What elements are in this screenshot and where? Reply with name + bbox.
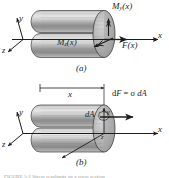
panel-b-caption: (b) [76,157,87,167]
figure-footnote-cut: FIGURE 5-2 Stress resultants on a cross … [4,174,166,178]
panel-a-caption: (a) [76,63,87,73]
moment-y-symbol: M [112,1,120,11]
panel-a-force-label: F(x) [122,41,138,50]
panel-b-dimension-label: x [68,90,72,99]
panel-a-y-axis-label: y [19,14,23,23]
moment-z-symbol: M [57,37,65,47]
panel-a-x-axis-label: x [158,31,162,40]
panel-b-x-axis-label: x [158,125,162,134]
panel-a-graphics [8,11,158,58]
panel-b-y-axis-label: y [19,108,23,117]
panel-b-local-y-label: y [106,108,110,117]
panel-b-area-element-label: dA [85,110,94,119]
panel-b-z-axis-label: z [2,140,5,149]
moment-y-argument: (x) [122,1,132,11]
figure-container: y z x My(x) Mz(x) F(x) (a) x y z x y z d… [0,0,169,178]
panel-a-moment-z-label: Mz(x) [57,38,77,48]
dforce-equals: = [121,88,130,98]
force-argument: (x) [128,40,138,50]
dforce-dA: dA [135,88,147,98]
panel-b-local-z-label: z [101,134,104,141]
moment-z-argument: (x) [67,37,77,47]
panel-b-dforce-equation: dF = σ dA [112,89,147,98]
panel-a-moment-y-label: My(x) [112,2,132,12]
panel-a-z-axis-label: z [2,46,5,55]
panel-a-z-axis [8,40,23,53]
panel-b-z-axis [8,134,23,147]
